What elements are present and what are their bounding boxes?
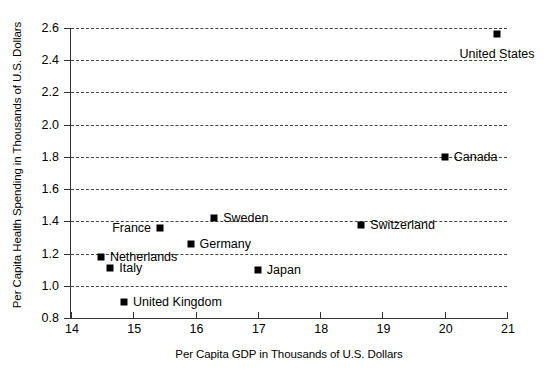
y-tick: 1.0 bbox=[64, 286, 71, 287]
x-tick-label: 14 bbox=[65, 322, 79, 336]
data-point-marker[interactable] bbox=[97, 253, 104, 260]
gridline bbox=[71, 92, 507, 93]
data-point-label: United States bbox=[460, 48, 535, 61]
data-point-label: Sweden bbox=[223, 212, 268, 225]
x-tick-label: 18 bbox=[314, 322, 328, 336]
scatter-chart: Per Capita Health Spending in Thousands … bbox=[0, 0, 552, 378]
x-tick-label: 20 bbox=[439, 322, 453, 336]
data-point-marker[interactable] bbox=[157, 224, 164, 231]
data-point-marker[interactable] bbox=[441, 153, 448, 160]
data-point-marker[interactable] bbox=[494, 31, 501, 38]
data-point-marker[interactable] bbox=[120, 298, 127, 305]
y-tick: 2.0 bbox=[64, 125, 71, 126]
data-point-label: Italy bbox=[119, 262, 142, 275]
data-point-label: Japan bbox=[267, 263, 301, 276]
y-tick: 2.4 bbox=[64, 60, 71, 61]
gridline bbox=[71, 189, 507, 190]
plot-area: NetherlandsItalyUnited KingdomFranceGerm… bbox=[71, 28, 507, 318]
x-tick-label: 21 bbox=[501, 322, 515, 336]
y-tick-label: 1.6 bbox=[42, 182, 59, 196]
y-tick: 2.6 bbox=[64, 28, 71, 29]
data-point-label: United Kingdom bbox=[133, 296, 222, 309]
y-tick-label: 2.4 bbox=[42, 53, 59, 67]
data-point-label: Canada bbox=[454, 151, 498, 164]
y-tick-label: 1.2 bbox=[42, 247, 59, 261]
y-tick-label: 1.4 bbox=[42, 214, 59, 228]
data-point-marker[interactable] bbox=[187, 240, 194, 247]
y-tick-label: 2.0 bbox=[42, 118, 59, 132]
data-point-label: France bbox=[112, 222, 151, 235]
y-tick: 1.8 bbox=[64, 157, 71, 158]
y-tick-label: 2.2 bbox=[42, 85, 59, 99]
data-point-label: Germany bbox=[200, 238, 251, 251]
x-tick-label: 19 bbox=[376, 322, 390, 336]
y-tick-label: 1.8 bbox=[42, 150, 59, 164]
data-point-label: Switzerland bbox=[370, 218, 435, 231]
gridline bbox=[71, 125, 507, 126]
x-axis-line bbox=[70, 318, 508, 319]
x-tick: 21 bbox=[507, 312, 508, 319]
y-tick: 2.2 bbox=[64, 92, 71, 93]
y-tick: 1.4 bbox=[64, 221, 71, 222]
y-tick: 1.2 bbox=[64, 254, 71, 255]
data-point-marker[interactable] bbox=[358, 221, 365, 228]
x-axis-title: Per Capita GDP in Thousands of U.S. Doll… bbox=[71, 348, 507, 360]
gridline bbox=[71, 60, 507, 61]
x-tick-label: 17 bbox=[252, 322, 266, 336]
x-tick-label: 16 bbox=[190, 322, 204, 336]
data-point-marker[interactable] bbox=[211, 215, 218, 222]
data-point-marker[interactable] bbox=[107, 265, 114, 272]
data-point-marker[interactable] bbox=[254, 266, 261, 273]
y-tick-label: 0.8 bbox=[42, 311, 59, 325]
y-tick-label: 2.6 bbox=[42, 21, 59, 35]
x-tick-label: 15 bbox=[127, 322, 141, 336]
gridline bbox=[71, 28, 507, 29]
y-axis-title: Per Capita Health Spending in Thousands … bbox=[6, 0, 28, 330]
y-tick: 1.6 bbox=[64, 189, 71, 190]
y-tick-label: 1.0 bbox=[42, 279, 59, 293]
gridline bbox=[71, 286, 507, 287]
y-tick: 0.8 bbox=[64, 318, 71, 319]
